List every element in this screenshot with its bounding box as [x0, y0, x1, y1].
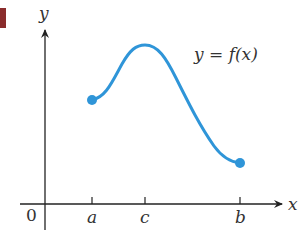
tick-label-b: b: [235, 207, 246, 227]
curve-label: y = f(x): [193, 44, 258, 64]
chart: y x 0 a c b y = f(x): [0, 0, 306, 238]
origin-label: 0: [26, 205, 37, 225]
endpoint-a: [87, 95, 97, 105]
tick-label-c: c: [140, 207, 150, 227]
y-axis-label: y: [38, 3, 49, 23]
endpoint-b: [235, 158, 245, 168]
x-axis-label: x: [288, 194, 298, 214]
tick-label-a: a: [87, 207, 97, 227]
